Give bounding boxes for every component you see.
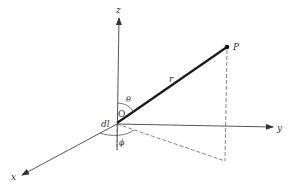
dl-label: dl: [101, 119, 110, 129]
origin-label: O: [118, 109, 125, 119]
theta-label: θ: [126, 95, 131, 104]
y-axis-label: y: [276, 123, 283, 133]
radius-line: [117, 47, 227, 123]
z-axis-label: z: [115, 5, 121, 15]
projection-ground-dashed: [117, 124, 225, 161]
phi-label: ϕ: [119, 138, 125, 147]
x-axis: [22, 124, 117, 175]
projection-vertical-dashed: [225, 50, 227, 161]
radius-label: r: [169, 74, 174, 84]
point-p-label: P: [232, 42, 240, 52]
point-p-dot: [225, 45, 230, 50]
y-axis: [117, 124, 273, 127]
spherical-coordinates-diagram: z y x P r θ O dl ϕ: [0, 0, 295, 185]
x-axis-label: x: [11, 172, 16, 182]
